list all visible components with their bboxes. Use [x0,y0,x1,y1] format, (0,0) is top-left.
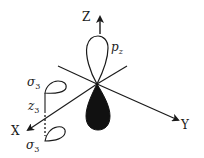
sigma3-lower-lobe [45,127,65,141]
sigma3-lower-sub: 3 [34,145,39,154]
y-axis-label: Y [180,118,190,132]
x-axis-label: X [11,124,20,138]
z-axis-label: Z [82,10,90,24]
pz-label-sub: z [118,47,124,56]
sigma3-upper-lobe [45,81,66,93]
pz-label: pz [111,40,124,56]
pz-lower-lobe [86,84,110,130]
sigma3-lower-label: σ3 [26,138,39,154]
sigma3-upper-sub: 3 [35,82,40,91]
pz-upper-lobe [87,36,108,84]
z3-sub: 3 [34,106,39,115]
z3-label: z3 [27,99,39,115]
sigma3-upper-label: σ3 [27,75,40,91]
orbital-diagram: Z Y X pz σ3 z3 σ3 [0,0,204,158]
